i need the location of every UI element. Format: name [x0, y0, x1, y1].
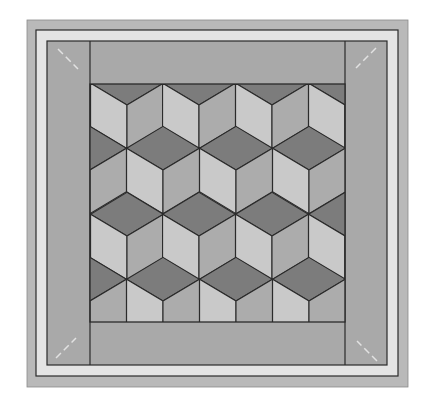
quilt-diagram	[0, 0, 429, 408]
